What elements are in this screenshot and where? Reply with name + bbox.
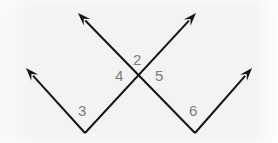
rays-group [26, 13, 252, 133]
angle-diagram-canvas [0, 0, 278, 143]
ray-right-outer-shaft [195, 76, 245, 133]
angle-label-4: 4 [115, 68, 123, 83]
angle-label-6: 6 [189, 103, 197, 118]
angle-diagram-figure: 2 4 5 3 6 [0, 0, 278, 143]
angle-label-3: 3 [78, 103, 86, 118]
angle-label-5: 5 [155, 68, 163, 83]
angle-label-2: 2 [133, 52, 141, 67]
